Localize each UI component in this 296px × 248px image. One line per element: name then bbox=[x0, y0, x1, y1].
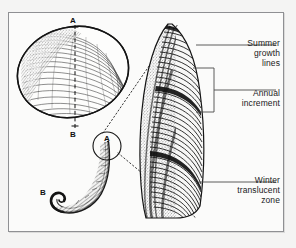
label-winter-line-1: Winter bbox=[237, 175, 280, 185]
valve-exterior-illustration bbox=[8, 16, 137, 134]
figure-container: Summer growth lines Annual increment Win… bbox=[0, 0, 296, 248]
label-annual-line-1: Annual bbox=[242, 88, 280, 98]
label-winter-translucent-zone: Winter translucent zone bbox=[237, 175, 280, 206]
label-winter-line-3: zone bbox=[237, 195, 280, 205]
marker-section-a: A bbox=[104, 134, 110, 143]
label-winter-line-2: translucent bbox=[237, 185, 280, 195]
valve-cross-section-illustration bbox=[51, 132, 121, 212]
marker-valve-b: B bbox=[70, 130, 76, 139]
label-annual-line-2: increment bbox=[242, 98, 280, 108]
label-summer-line-1: Summer bbox=[247, 38, 280, 48]
marker-valve-a: A bbox=[70, 16, 76, 25]
label-annual-increment: Annual increment bbox=[242, 88, 280, 108]
marker-section-b: B bbox=[40, 188, 46, 197]
label-summer-line-2: growth bbox=[247, 48, 280, 58]
label-summer-growth-lines: Summer growth lines bbox=[247, 38, 280, 69]
magnified-margin-illustration bbox=[136, 18, 212, 224]
label-summer-line-3: lines bbox=[247, 58, 280, 68]
